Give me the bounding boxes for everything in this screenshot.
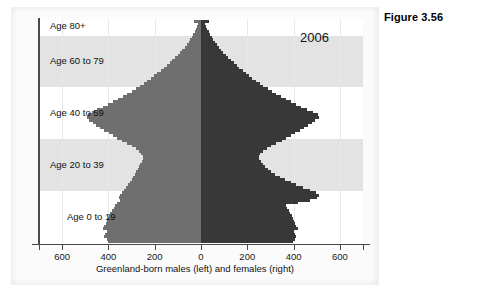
bar-female-age-52 (201, 106, 301, 109)
bar-female-age-54 (201, 100, 291, 103)
bar-male-age-71 (175, 56, 201, 59)
bar-male-age-61 (144, 82, 201, 85)
bar-male-age-5 (103, 227, 201, 230)
bar-male-age-77 (189, 41, 201, 44)
bar-male-age-79 (192, 36, 201, 39)
bar-female-age-41 (201, 134, 291, 137)
bar-female-age-21 (201, 186, 303, 189)
bar-male-age-43 (104, 129, 201, 132)
bar-male-age-85 (194, 20, 201, 23)
bar-female-age-38 (201, 142, 276, 145)
bar-female-age-78 (201, 38, 213, 41)
bar-female-age-80 (201, 33, 210, 36)
bar-female-age-35 (201, 150, 263, 153)
bar-male-age-2 (104, 235, 201, 238)
bar-female-age-42 (201, 132, 295, 135)
x-tick-6 (340, 245, 341, 250)
x-tick-label-4: 200 (239, 251, 255, 262)
x-tick-4 (247, 245, 248, 250)
age-band-label-age-60-to-79: Age 60 to 79 (50, 55, 104, 66)
bar-male-age-6 (104, 225, 201, 228)
x-tick-edge-0 (39, 245, 40, 250)
bar-female-age-28 (201, 168, 268, 171)
bar-female-age-47 (201, 119, 315, 122)
bar-female-age-57 (201, 93, 276, 96)
bar-male-age-19 (122, 191, 201, 194)
bar-female-age-1 (201, 238, 295, 241)
bar-female-age-55 (201, 98, 286, 101)
bar-male-age-51 (97, 108, 201, 111)
bar-male-age-17 (119, 196, 201, 199)
bar-female-age-36 (201, 147, 267, 150)
bar-male-age-9 (108, 217, 201, 220)
bar-female-age-12 (201, 209, 289, 212)
bar-female-age-61 (201, 82, 260, 85)
bar-female-age-63 (201, 77, 252, 80)
bar-female-age-13 (201, 207, 287, 210)
bar-female-age-71 (201, 56, 228, 59)
bar-male-age-67 (164, 67, 201, 70)
bar-male-age-57 (127, 93, 201, 96)
bar-female-age-10 (201, 214, 292, 217)
bar-male-age-80 (193, 33, 201, 36)
population-pyramid-chart: 6004002000200400600 Greenland-born males… (12, 8, 378, 284)
pyramid-bars (39, 20, 363, 243)
bar-male-age-18 (120, 194, 201, 197)
bar-male-age-3 (105, 233, 201, 236)
bar-female-age-2 (201, 235, 296, 238)
bar-male-age-16 (120, 199, 201, 202)
bar-male-age-63 (151, 77, 201, 80)
bar-female-age-15 (201, 202, 298, 205)
bar-male-age-37 (132, 144, 201, 147)
bar-female-age-67 (201, 67, 239, 70)
bar-male-age-34 (141, 152, 201, 155)
bar-female-age-16 (201, 199, 310, 202)
bar-male-age-73 (180, 51, 201, 54)
bar-female-age-85 (201, 20, 209, 23)
bar-female-age-73 (201, 51, 223, 54)
bar-female-age-9 (201, 217, 293, 220)
bar-female-age-53 (201, 103, 296, 106)
bar-male-age-46 (93, 121, 201, 124)
bar-female-age-84 (201, 23, 205, 26)
bar-female-age-7 (201, 222, 295, 225)
x-tick-3 (201, 245, 202, 250)
bar-male-age-41 (113, 134, 201, 137)
bar-female-age-33 (201, 155, 259, 158)
bar-male-age-52 (103, 106, 201, 109)
bar-female-age-65 (201, 72, 246, 75)
bar-male-age-27 (136, 170, 201, 173)
bar-male-age-0 (108, 240, 201, 243)
bar-female-age-46 (201, 121, 312, 124)
plot-area (39, 20, 363, 243)
bar-female-age-43 (201, 129, 300, 132)
bar-male-age-53 (108, 103, 201, 106)
bar-female-age-56 (201, 95, 281, 98)
x-tick-2 (155, 245, 156, 250)
bar-male-age-65 (157, 72, 201, 75)
bar-male-age-40 (117, 137, 201, 140)
bar-female-age-20 (201, 189, 310, 192)
bar-male-age-21 (126, 186, 201, 189)
bar-male-age-36 (136, 147, 201, 150)
bar-male-age-55 (118, 98, 201, 101)
bar-male-age-23 (130, 181, 201, 184)
bar-male-age-60 (140, 85, 201, 88)
bar-male-age-59 (136, 87, 201, 90)
bar-female-age-48 (201, 116, 319, 119)
bar-female-age-79 (201, 36, 212, 39)
bar-female-age-34 (201, 152, 260, 155)
bar-female-age-77 (201, 41, 215, 44)
x-tick-0 (62, 245, 63, 250)
bar-male-age-76 (187, 43, 201, 46)
bar-male-age-4 (107, 230, 201, 233)
x-tick-1 (108, 245, 109, 250)
bar-female-age-68 (201, 64, 237, 67)
bar-male-age-64 (154, 74, 201, 77)
bar-male-age-35 (139, 150, 201, 153)
x-tick-label-5: 400 (286, 251, 302, 262)
bar-female-age-75 (201, 46, 219, 49)
bar-male-age-33 (143, 155, 201, 158)
x-axis-title: Greenland-born males (left) and females … (12, 263, 378, 274)
bar-female-age-24 (201, 178, 285, 181)
